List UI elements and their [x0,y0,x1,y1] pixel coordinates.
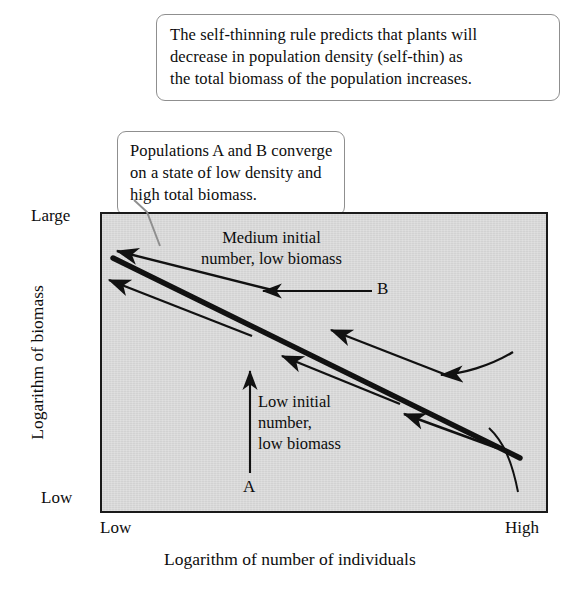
x-axis-tick-high: High [505,518,539,538]
x-axis-label: Logarithm of number of individuals [164,549,416,570]
callout-populations-converge: Populations A and B converge on a state … [117,131,345,216]
y-axis-tick-low: Low [41,488,72,508]
annotation-medium-initial: Medium initial number, low biomass [201,228,342,270]
self-thinning-figure: The self-thinning rule predicts that pla… [0,0,581,603]
annotation-medium-line-1: Medium initial [201,228,342,249]
y-axis-label: Logarithm of biomass [27,263,48,463]
callout-converge-line-3: high total biomass. [130,184,333,206]
callout-converge-line-2: on a state of low density and [130,162,333,184]
population-a-label: A [243,477,255,497]
x-axis-tick-low: Low [100,518,131,538]
callout-top-line-2: decrease in population density (self-thi… [170,46,546,68]
callout-self-thinning-rule: The self-thinning rule predicts that pla… [156,14,560,101]
annotation-low-initial: Low initial number, low biomass [258,392,341,454]
annotation-medium-line-2: number, low biomass [201,249,342,270]
annotation-low-line-3: low biomass [258,434,341,455]
annotation-low-line-1: Low initial [258,392,341,413]
callout-converge-line-1: Populations A and B converge [130,140,333,162]
callout-top-line-1: The self-thinning rule predicts that pla… [170,24,546,46]
y-axis-tick-large: Large [31,206,70,226]
annotation-low-line-2: number, [258,413,341,434]
population-b-label: B [377,279,388,299]
callout-top-line-3: the total biomass of the population incr… [170,68,546,90]
